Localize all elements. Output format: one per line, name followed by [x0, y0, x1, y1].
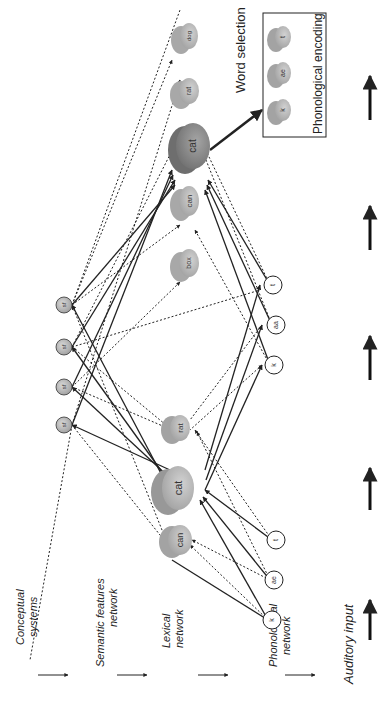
svg-text:sf: sf — [61, 384, 67, 389]
phoneme-node-k2: k — [265, 356, 283, 374]
semantic-node-3: sf — [56, 339, 72, 355]
phoneme-node-t2: t — [264, 276, 282, 294]
svg-text:k: k — [270, 363, 277, 367]
label-auditory-input: Auditory input — [341, 603, 356, 685]
phonological-encoding-box: Phonological encoding k ae t — [263, 13, 326, 137]
lexical-node-rat2: rat — [170, 78, 199, 109]
svg-text:sf: sf — [61, 422, 67, 427]
network-diagram: Conceptual systems Semantic features net… — [0, 0, 387, 717]
lexical-node-box: box — [170, 249, 199, 282]
semantic-features: sf sf sf sf — [56, 297, 72, 433]
svg-text:can: can — [185, 195, 194, 208]
phoneme-node-t: t — [267, 531, 285, 549]
label-lexical-1: Lexical — [160, 613, 172, 648]
svg-text:k: k — [279, 108, 286, 112]
svg-text:cat: cat — [172, 481, 184, 496]
semantic-node-1: sf — [56, 417, 72, 433]
lexical-node-can2: can — [170, 186, 199, 221]
svg-text:Word selection: Word selection — [233, 7, 248, 93]
level-labels: Conceptual systems Semantic features net… — [14, 578, 356, 685]
svg-text:dog: dog — [186, 31, 192, 41]
label-lexical-2: network — [173, 609, 185, 648]
semantic-node-2: sf — [56, 379, 72, 395]
svg-text:t: t — [269, 284, 276, 286]
svg-text:aa: aa — [272, 321, 279, 329]
svg-text:sf: sf — [61, 302, 67, 307]
svg-text:cat: cat — [187, 139, 198, 153]
svg-text:ae: ae — [270, 576, 277, 584]
lexical-node-can: can — [159, 525, 192, 558]
encoding-node-k: k — [267, 99, 291, 125]
svg-text:rat: rat — [176, 423, 185, 433]
label-conceptual-1: Conceptual — [14, 589, 26, 645]
phonological-encoding-label: Phonological encoding — [311, 13, 325, 134]
encoding-node-t: t — [267, 26, 291, 52]
lexical-node-cat-selected: cat — [168, 123, 210, 174]
svg-text:ae: ae — [279, 69, 286, 77]
phase1-lexical: can cat rat — [151, 415, 194, 558]
svg-text:k: k — [268, 618, 275, 622]
label-conceptual-2: systems — [27, 596, 39, 637]
phase2-phonemes: k aa t — [264, 276, 285, 374]
label-phonological-2: network — [280, 616, 292, 655]
svg-text:t: t — [279, 36, 286, 38]
phase1-phonemes: k ae t — [263, 531, 285, 629]
semantic-node-4: sf — [56, 297, 72, 313]
svg-text:can: can — [175, 533, 185, 548]
svg-text:sf: sf — [61, 344, 67, 349]
svg-text:rat: rat — [185, 87, 192, 95]
word-selection-label: Word selection — [233, 7, 248, 93]
phase2-lexical: box can cat rat dog — [168, 23, 210, 282]
encoding-node-ae: ae — [267, 62, 291, 88]
label-semantic-2: network — [107, 588, 119, 627]
phoneme-node-k: k — [263, 611, 281, 629]
phoneme-node-aa: aa — [267, 316, 285, 334]
svg-text:t: t — [272, 539, 279, 541]
label-semantic-1: Semantic features — [94, 578, 106, 667]
svg-text:box: box — [185, 257, 192, 269]
lexical-node-rat: rat — [161, 415, 190, 444]
phoneme-node-ae: ae — [265, 571, 283, 589]
lexical-node-dog: dog — [171, 23, 198, 54]
lexical-node-cat: cat — [151, 466, 194, 515]
connections — [30, 10, 272, 660]
